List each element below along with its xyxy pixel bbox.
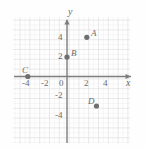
x-axis-label: x — [126, 78, 130, 88]
y-tick-label-4: 4 — [58, 33, 63, 42]
y-axis-label: y — [68, 7, 72, 17]
point-label-D: D — [88, 97, 95, 106]
grid-major — [13, 17, 130, 143]
plot-canvas — [0, 0, 146, 150]
point-label-B: B — [71, 49, 77, 58]
x-tick-label-zero: 0 — [59, 79, 64, 88]
data-point-B — [64, 54, 69, 59]
y-tick-label-neg2: -2 — [55, 91, 63, 100]
y-tick-label-neg4: -4 — [55, 111, 63, 120]
x-tick-label-2: 2 — [84, 79, 89, 88]
x-tick-label-neg2: -2 — [41, 79, 49, 88]
point-label-A: A — [91, 29, 97, 38]
x-tick-label-4: 4 — [103, 79, 108, 88]
data-point-A — [84, 35, 89, 40]
coordinate-plane-figure: x y -4 -2 0 2 4 4 2 -2 -4 A B C D — [0, 0, 146, 150]
x-tick-label-neg4: -4 — [22, 79, 30, 88]
point-label-C: C — [22, 66, 28, 75]
y-tick-label-2: 2 — [58, 52, 63, 61]
